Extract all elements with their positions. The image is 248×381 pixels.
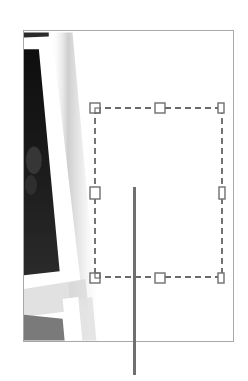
selection-overlay [0, 0, 248, 381]
leader-line [133, 187, 136, 375]
resize-handle-top-right[interactable] [218, 103, 224, 113]
selection-box[interactable] [95, 108, 222, 277]
resize-handle-middle-right[interactable] [219, 187, 225, 199]
resize-handle-bottom-right[interactable] [218, 273, 224, 283]
resize-handle-bottom-left[interactable] [90, 273, 100, 283]
resize-handle-middle-left[interactable] [90, 187, 100, 199]
resize-handle-bottom-middle[interactable] [155, 273, 165, 283]
resize-handle-top-left[interactable] [90, 103, 100, 113]
resize-handle-top-middle[interactable] [155, 103, 165, 113]
